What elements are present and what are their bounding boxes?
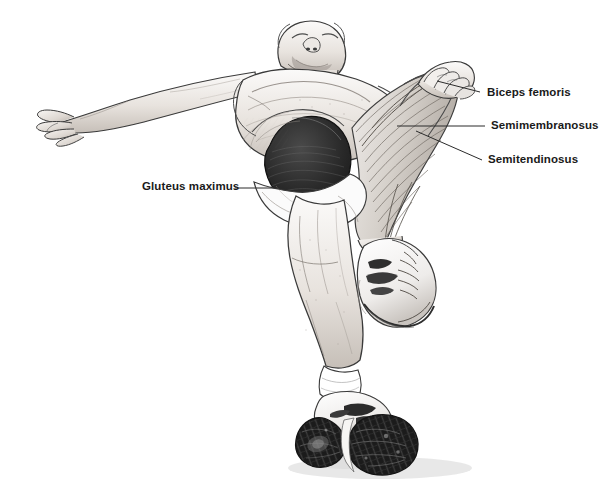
label-semimembranosus: Semimembranosus [491,119,599,131]
standing-foot-sole [296,392,418,476]
anatomy-illustration-canvas: Biceps femoris Semimembranosus Semitendi… [0,0,609,498]
anatomy-figure-drawing [0,0,609,498]
label-semitendinosus: Semitendinosus [488,153,578,165]
left-arm-extended [37,72,262,146]
standing-leg [288,196,363,401]
label-biceps-femoris: Biceps femoris [487,86,571,98]
label-gluteus-maximus: Gluteus maximus [142,180,239,192]
raised-foot-shoe [357,239,436,328]
